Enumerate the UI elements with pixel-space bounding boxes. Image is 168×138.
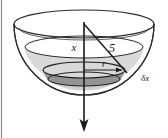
figure-container: x 5 r δx [0, 0, 168, 138]
label-radius: r [102, 58, 106, 69]
label-thickness: δx [141, 73, 149, 83]
hemisphere-diagram: x 5 r δx [0, 0, 168, 138]
label-axis-depth: x [71, 41, 77, 53]
label-slant: 5 [109, 41, 115, 55]
